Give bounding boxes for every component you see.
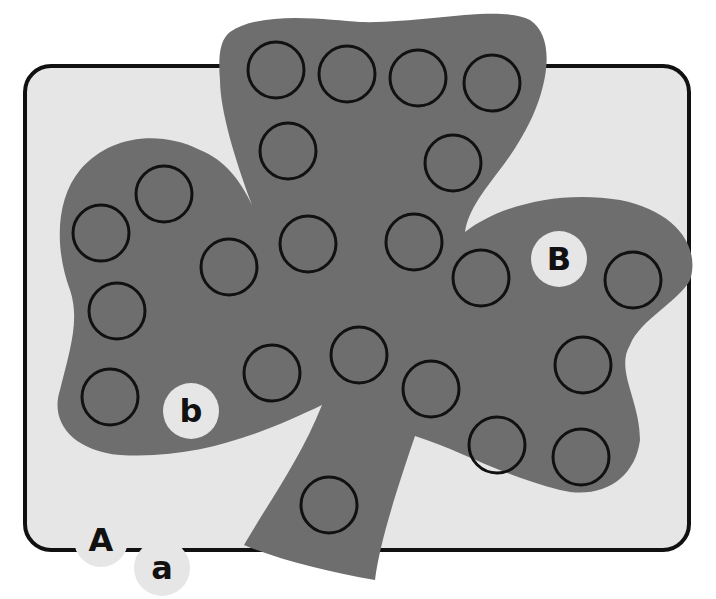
letter-label: A xyxy=(89,521,114,559)
letter-disc-a: a xyxy=(134,540,190,596)
letter-disc-B: B xyxy=(531,231,587,287)
letter-label: a xyxy=(151,549,173,587)
letter-disc-b: b xyxy=(163,383,219,439)
shamrock-worksheet: BbAa xyxy=(0,0,716,599)
letter-label: B xyxy=(547,240,571,278)
letter-label: b xyxy=(180,392,203,430)
letter-disc-A: A xyxy=(74,513,128,567)
